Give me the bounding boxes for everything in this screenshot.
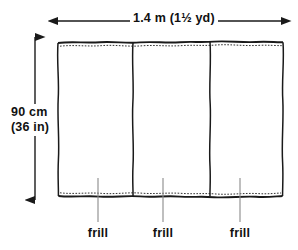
- frill-callout-label-3: frill: [230, 226, 250, 240]
- height-label-line-1: 90 cm: [11, 105, 47, 119]
- bottom-hem: [58, 196, 282, 197]
- panel-seam-1: [133, 43, 134, 197]
- frill-callout-label-2: frill: [153, 226, 173, 240]
- height-label-line-2: (36 in): [11, 120, 49, 135]
- right-edge: [282, 42, 283, 196]
- top-hem: [58, 41, 283, 43]
- frill-leader-lines: [98, 178, 240, 222]
- top-hem-stitchline: [60, 45, 282, 46]
- curtain-dimension-figure: 1.4 m (1½ yd) 90 cm(36 in) frill frill f…: [0, 0, 298, 250]
- bottom-hem-stitchline: [60, 193, 281, 194]
- panel-seam-2: [210, 42, 211, 197]
- left-edge: [58, 43, 59, 196]
- frill-callout-label-1: frill: [88, 226, 108, 240]
- width-dimension-label: 1.4 m (1½ yd): [130, 11, 218, 25]
- fabric-panel-outline: [58, 41, 284, 197]
- height-dimension-label: 90 cm(36 in): [9, 104, 51, 136]
